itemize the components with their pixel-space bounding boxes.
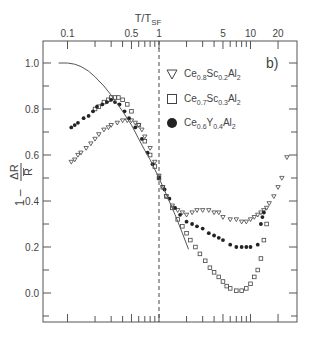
square-marker bbox=[259, 257, 263, 261]
y-label-numerator: ΔR bbox=[8, 164, 20, 179]
x-tick-label: 20 bbox=[272, 28, 284, 39]
panel-label: b) bbox=[266, 55, 278, 71]
triangle-marker bbox=[212, 211, 216, 215]
circle-marker bbox=[173, 206, 177, 210]
y-tick-label: 0.4 bbox=[25, 196, 39, 207]
circle-marker bbox=[244, 245, 248, 249]
legend-entry: Ce0.6Y0.4Al2 bbox=[167, 117, 236, 130]
circle-marker bbox=[190, 222, 194, 226]
triangle-marker bbox=[190, 211, 194, 215]
circle-marker bbox=[185, 220, 189, 224]
triangle-marker bbox=[106, 126, 110, 130]
legend: b)Ce0.8Sc0.2Al2Ce0.7Sc0.3Al2Ce0.6Y0.4Al2 bbox=[167, 55, 278, 130]
square-marker bbox=[262, 238, 266, 242]
square-marker bbox=[130, 110, 134, 114]
triangle-marker bbox=[272, 195, 276, 199]
series-Ce0.7Sc0.3Al2 bbox=[93, 96, 268, 293]
legend-square-icon bbox=[168, 95, 177, 104]
circle-marker bbox=[195, 224, 199, 228]
triangle-marker bbox=[285, 156, 289, 160]
circle-marker bbox=[262, 211, 266, 215]
circle-marker bbox=[261, 215, 265, 219]
triangle-marker bbox=[89, 142, 93, 146]
triangle-marker bbox=[102, 128, 106, 132]
circle-marker bbox=[201, 227, 205, 231]
legend-label: Ce0.8Sc0.2Al2 bbox=[184, 68, 241, 81]
circle-marker bbox=[178, 213, 182, 217]
series-Ce0.8Sc0.2Al2 bbox=[69, 119, 289, 224]
circle-marker bbox=[69, 126, 73, 130]
x-tick-label: 10 bbox=[245, 28, 257, 39]
circle-marker bbox=[240, 245, 244, 249]
circle-marker bbox=[234, 245, 238, 249]
circle-marker bbox=[76, 121, 80, 125]
square-marker bbox=[212, 271, 216, 275]
circle-marker bbox=[109, 98, 113, 102]
x-axis-label-sub: SF bbox=[151, 18, 161, 27]
plot-frame bbox=[43, 41, 297, 322]
square-marker bbox=[143, 139, 147, 143]
circle-marker bbox=[91, 109, 95, 113]
triangle-marker bbox=[252, 216, 256, 220]
circle-marker bbox=[140, 137, 144, 141]
square-marker bbox=[256, 268, 260, 272]
circle-marker bbox=[95, 105, 99, 109]
series-Ce0.6Y0.4Al2 bbox=[69, 98, 265, 249]
y-tick-label: 0.8 bbox=[25, 104, 39, 115]
triangle-marker bbox=[217, 211, 221, 215]
triangle-marker bbox=[280, 176, 284, 180]
square-marker bbox=[189, 238, 193, 242]
square-marker bbox=[265, 222, 269, 226]
triangle-marker bbox=[228, 218, 232, 222]
triangle-marker bbox=[276, 186, 280, 190]
y-label-one-minus: 1 – bbox=[13, 189, 27, 206]
circle-marker bbox=[87, 114, 91, 118]
square-marker bbox=[221, 280, 225, 284]
triangle-marker bbox=[200, 209, 204, 213]
legend-entry: Ce0.8Sc0.2Al2 bbox=[167, 68, 241, 81]
square-marker bbox=[198, 252, 202, 256]
x-tick-label: 0.5 bbox=[125, 28, 139, 39]
legend-triangle-icon bbox=[167, 70, 177, 79]
circle-marker bbox=[249, 245, 253, 249]
legend-circle-icon bbox=[167, 118, 177, 128]
triangle-marker bbox=[97, 133, 101, 137]
square-marker bbox=[185, 231, 189, 235]
circle-marker bbox=[259, 222, 263, 226]
circle-marker bbox=[73, 123, 77, 127]
square-marker bbox=[252, 275, 256, 279]
square-marker bbox=[203, 259, 207, 263]
x-axis-label: T/TSF bbox=[135, 12, 162, 27]
triangle-marker bbox=[195, 209, 199, 213]
square-marker bbox=[208, 266, 212, 270]
legend-label: Ce0.6Y0.4Al2 bbox=[184, 117, 236, 130]
triangle-marker bbox=[84, 147, 88, 151]
legend-entry: Ce0.7Sc0.3Al2 bbox=[168, 93, 241, 106]
circle-marker bbox=[105, 100, 109, 104]
legend-label: Ce0.7Sc0.3Al2 bbox=[184, 93, 241, 106]
x-tick-label: 5 bbox=[220, 28, 226, 39]
plot-area bbox=[59, 41, 290, 322]
triangle-marker bbox=[248, 218, 252, 222]
circle-marker bbox=[212, 234, 216, 238]
circle-marker bbox=[207, 231, 211, 235]
triangle-marker bbox=[69, 160, 73, 164]
square-marker bbox=[217, 275, 221, 279]
square-marker bbox=[125, 103, 129, 107]
square-marker bbox=[245, 287, 249, 291]
square-marker bbox=[240, 289, 244, 293]
triangle-marker bbox=[239, 220, 243, 224]
square-marker bbox=[194, 245, 198, 249]
square-marker bbox=[181, 225, 185, 229]
circle-marker bbox=[221, 238, 225, 242]
y-tick-label: 0.0 bbox=[25, 288, 39, 299]
square-marker bbox=[235, 289, 239, 293]
axes: 0.10.5151020T/TSF1.00.80.60.40.20.01 –ΔR… bbox=[8, 12, 297, 322]
square-marker bbox=[121, 98, 125, 102]
circle-marker bbox=[82, 116, 86, 120]
y-tick-label: 0.2 bbox=[25, 242, 39, 253]
triangle-marker bbox=[267, 202, 271, 206]
triangle-marker bbox=[244, 220, 248, 224]
triangle-marker bbox=[76, 153, 80, 157]
triangle-marker bbox=[115, 121, 119, 125]
